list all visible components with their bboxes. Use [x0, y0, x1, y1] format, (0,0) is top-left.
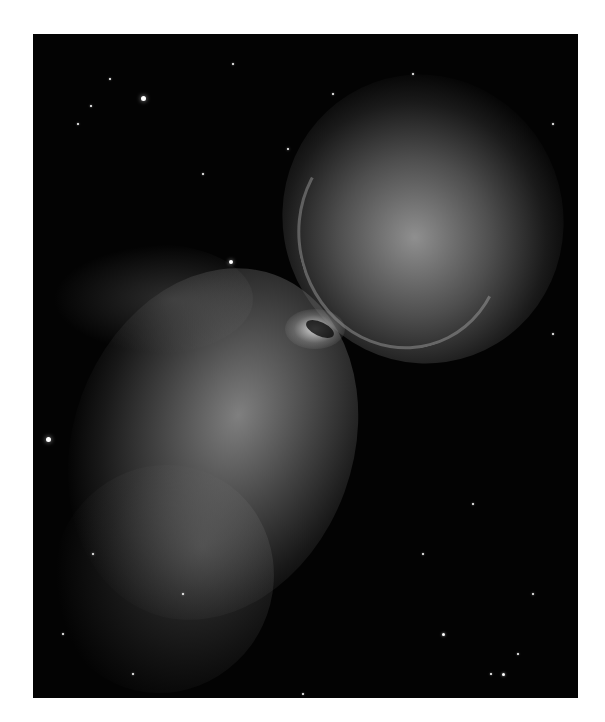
star: [412, 73, 414, 75]
star: [46, 437, 51, 442]
star: [532, 593, 534, 595]
star: [62, 633, 64, 635]
star: [202, 173, 204, 175]
star: [232, 63, 234, 65]
star: [229, 260, 233, 264]
nebula-left-wisps: [53, 244, 253, 354]
star: [90, 105, 92, 107]
star: [182, 593, 184, 595]
star: [77, 123, 79, 125]
star: [472, 503, 474, 505]
star: [490, 673, 492, 675]
star: [502, 673, 505, 676]
star: [517, 653, 519, 655]
star: [422, 553, 424, 555]
star: [442, 633, 445, 636]
star: [287, 148, 289, 150]
star: [132, 673, 134, 675]
star: [141, 96, 146, 101]
star: [552, 123, 554, 125]
star: [332, 93, 334, 95]
star: [109, 78, 111, 80]
star: [552, 333, 554, 335]
star: [302, 693, 304, 695]
nebula-image: [33, 34, 578, 698]
